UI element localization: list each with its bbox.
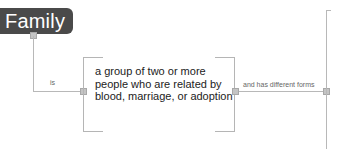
- definition-right-handle[interactable]: [232, 88, 239, 95]
- forms-grouping-bar: [326, 10, 327, 149]
- definition-text: a group of two or more people who are re…: [95, 65, 235, 103]
- family-node-label: Family: [5, 10, 65, 32]
- forms-grouping-bar-tick: [326, 10, 331, 11]
- definition-concept-node[interactable]: a group of two or more people who are re…: [83, 57, 235, 132]
- family-concept-node[interactable]: Family: [0, 8, 73, 34]
- is-link-label[interactable]: is: [50, 79, 55, 86]
- is-connector-vertical: [33, 36, 34, 91]
- different-forms-connector: [239, 91, 323, 92]
- different-forms-link-label[interactable]: and has different forms: [243, 81, 314, 88]
- is-connector-horizontal: [33, 91, 83, 92]
